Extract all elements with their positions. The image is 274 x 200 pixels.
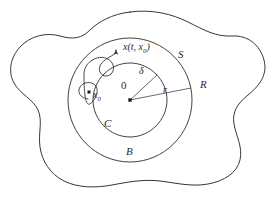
label-trajectory: x(t, x0) (123, 42, 150, 55)
diagram-canvas (0, 0, 274, 200)
label-annulus-B: B (126, 146, 133, 157)
label-radius-delta: δ (139, 66, 144, 76)
label-trajectory-prefix: x(t, x (123, 41, 143, 52)
radius-line-delta (130, 75, 157, 100)
label-circle-S: S (178, 49, 184, 60)
initial-point-marker (88, 91, 91, 94)
origin-marker (128, 98, 131, 101)
label-region-R: R (200, 79, 207, 90)
label-circle-C: C (104, 118, 111, 129)
label-initial-point-subscript: 0 (97, 95, 100, 102)
lyapunov-stability-diagram: R S B C r δ 0 x0 x(t, x0) (0, 0, 274, 200)
label-radius-r: r (163, 85, 167, 95)
label-origin: 0 (121, 80, 127, 91)
radius-line-r (130, 88, 191, 100)
label-initial-point: x0 (93, 90, 101, 103)
label-trajectory-suffix: ) (146, 41, 149, 52)
region-boundary-R (11, 11, 265, 187)
